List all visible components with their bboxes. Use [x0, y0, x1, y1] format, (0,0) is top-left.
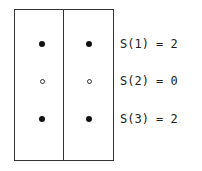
site-dot-r2-c1: [40, 79, 45, 84]
site-dot-r1-c2: [86, 41, 92, 47]
site-dot-r1-c1: [39, 41, 45, 47]
site-dot-r3-c2: [86, 116, 92, 122]
row-label-2: S(2) = 0: [120, 74, 178, 88]
site-dot-r2-c2: [87, 79, 92, 84]
lattice-box: [14, 9, 114, 161]
column-divider: [63, 9, 64, 160]
row-label-1: S(1) = 2: [120, 37, 178, 51]
row-label-3: S(3) = 2: [120, 112, 178, 126]
site-dot-r3-c1: [39, 116, 45, 122]
